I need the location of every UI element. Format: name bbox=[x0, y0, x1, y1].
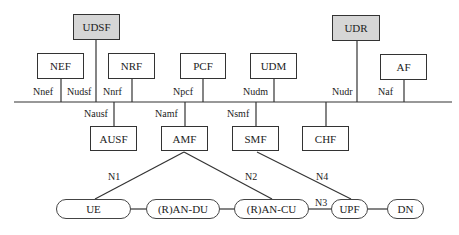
udm-label: UDM bbox=[261, 60, 287, 72]
nnrf-label: Nnrf bbox=[103, 86, 122, 98]
nudr-label: Nudr bbox=[332, 86, 353, 98]
ran-cu-label: (R)AN-CU bbox=[247, 203, 297, 215]
nrf-label: NRF bbox=[121, 60, 142, 72]
amf-label: AMF bbox=[173, 133, 197, 145]
nrf-box: NRF bbox=[108, 53, 155, 79]
upf-label: UPF bbox=[339, 203, 359, 215]
chf-label: CHF bbox=[315, 133, 336, 145]
nef-box: NEF bbox=[37, 53, 84, 79]
naf-label: Naf bbox=[378, 86, 393, 98]
udr-box: UDR bbox=[332, 15, 380, 41]
udsf-label: UDSF bbox=[82, 21, 110, 33]
pcf-box: PCF bbox=[180, 53, 226, 79]
n2-line bbox=[184, 152, 272, 199]
ausf-label: AUSF bbox=[99, 133, 127, 145]
ausf-box: AUSF bbox=[90, 126, 137, 151]
ue-label: UE bbox=[86, 203, 101, 215]
nef-label: NEF bbox=[50, 60, 71, 72]
smf-box: SMF bbox=[232, 126, 279, 151]
namf-label: Namf bbox=[155, 108, 178, 120]
udr-label: UDR bbox=[344, 22, 367, 34]
udm-box: UDM bbox=[250, 53, 297, 79]
nausf-label: Nausf bbox=[84, 108, 108, 120]
npcf-label: Npcf bbox=[173, 86, 193, 98]
ue-node: UE bbox=[56, 199, 131, 219]
nnef-label: Nnef bbox=[33, 86, 53, 98]
n3-label: N3 bbox=[315, 197, 327, 209]
n4-line bbox=[257, 152, 351, 199]
af-label: AF bbox=[396, 61, 410, 73]
chf-box: CHF bbox=[302, 126, 349, 151]
udsf-box: UDSF bbox=[73, 14, 120, 40]
upf-node: UPF bbox=[331, 199, 368, 219]
dn-label: DN bbox=[398, 203, 414, 215]
af-box: AF bbox=[380, 54, 427, 80]
dn-node: DN bbox=[387, 199, 424, 219]
pcf-label: PCF bbox=[193, 60, 213, 72]
amf-box: AMF bbox=[161, 126, 208, 151]
ran-cu-node: (R)AN-CU bbox=[234, 199, 309, 219]
smf-label: SMF bbox=[244, 133, 266, 145]
ran-du-node: (R)AN-DU bbox=[146, 199, 220, 219]
nsmf-label: Nsmf bbox=[227, 108, 249, 120]
nudsf-label: Nudsf bbox=[67, 86, 91, 98]
nudm-label: Nudm bbox=[243, 86, 268, 98]
n2-label: N2 bbox=[245, 171, 257, 183]
n4-label: N4 bbox=[316, 171, 328, 183]
ran-du-label: (R)AN-DU bbox=[158, 203, 208, 215]
n1-label: N1 bbox=[108, 171, 120, 183]
